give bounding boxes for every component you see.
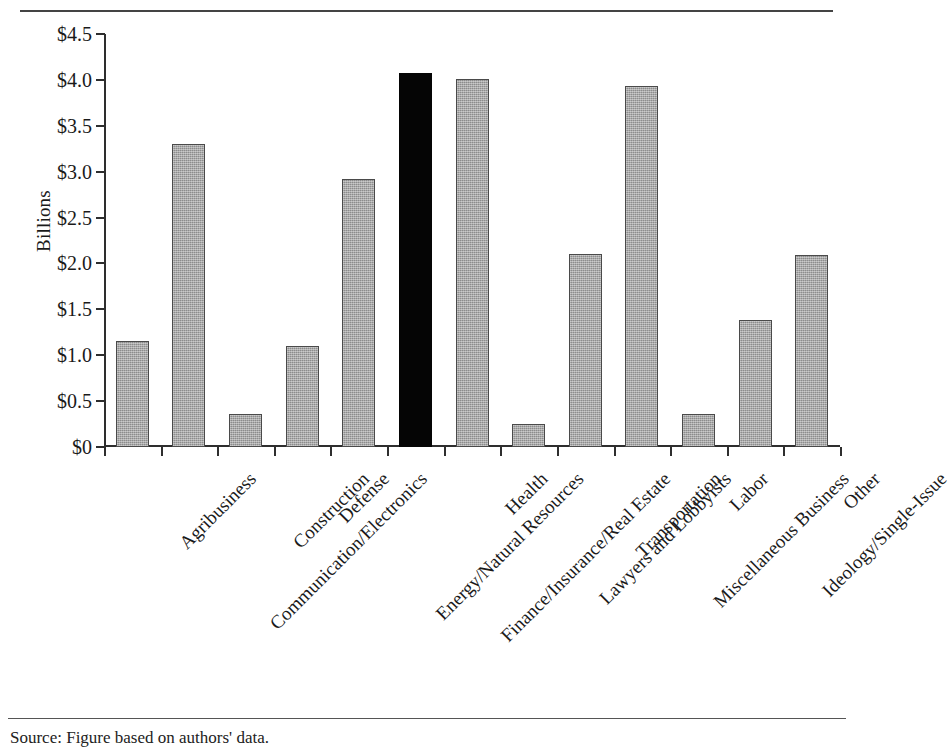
y-tick-label: $2.0 (57, 252, 92, 275)
x-tick-mark (104, 447, 106, 456)
plot-area: $0$0.5$1.0$1.5$2.0$2.5$3.0$3.5$4.0$4.5 (104, 14, 844, 460)
y-tick-label: $3.0 (57, 160, 92, 183)
y-tick-mark (96, 308, 105, 310)
bar[interactable] (739, 320, 772, 447)
x-tick-mark (727, 447, 729, 456)
x-axis-label: Labor (726, 468, 774, 516)
y-tick-mark (96, 125, 105, 127)
bar[interactable] (342, 179, 375, 447)
y-axis-title: Billions (33, 161, 55, 281)
y-tick-mark (96, 354, 105, 356)
bar[interactable] (456, 79, 489, 447)
y-tick-mark (96, 79, 105, 81)
x-tick-mark (783, 447, 785, 456)
bar[interactable] (682, 414, 715, 447)
x-tick-mark (217, 447, 219, 456)
x-tick-mark (387, 447, 389, 456)
y-tick-mark (96, 217, 105, 219)
bar[interactable] (172, 144, 205, 447)
x-tick-mark (444, 447, 446, 456)
x-tick-mark (840, 447, 842, 456)
x-axis-labels: AgribusinessCommunication/ElectronicsCon… (104, 460, 844, 714)
y-tick-label: $2.5 (57, 206, 92, 229)
y-tick-label: $0.5 (57, 390, 92, 413)
bar[interactable] (399, 73, 432, 447)
y-tick-mark (96, 33, 105, 35)
bar[interactable] (625, 86, 658, 447)
bottom-rule (8, 718, 846, 719)
x-axis-label: Agribusiness (175, 468, 261, 554)
x-tick-mark (557, 447, 559, 456)
bar[interactable] (795, 255, 828, 447)
y-tick-label: $3.5 (57, 114, 92, 137)
y-tick-mark (96, 171, 105, 173)
y-tick-mark (96, 262, 105, 264)
x-tick-mark (614, 447, 616, 456)
bar[interactable] (116, 341, 149, 447)
x-tick-mark (274, 447, 276, 456)
top-rule (20, 10, 833, 12)
bar[interactable] (229, 414, 262, 447)
bar[interactable] (512, 424, 545, 447)
y-tick-label: $1.0 (57, 344, 92, 367)
y-tick-mark (96, 400, 105, 402)
y-tick-label: $1.5 (57, 298, 92, 321)
y-tick-label: $4.0 (57, 68, 92, 91)
x-tick-mark (500, 447, 502, 456)
y-tick-label: $0 (72, 436, 92, 459)
x-axis-label: Energy/Natural Resources (431, 468, 588, 625)
x-tick-mark (330, 447, 332, 456)
x-tick-mark (161, 447, 163, 456)
bar-chart: Billions $0$0.5$1.0$1.5$2.0$2.5$3.0$3.5$… (0, 14, 853, 714)
bar[interactable] (286, 346, 319, 447)
y-axis-line (104, 34, 106, 447)
bar[interactable] (569, 254, 602, 447)
y-tick-label: $4.5 (57, 23, 92, 46)
source-note: Source: Figure based on authors' data. (10, 728, 269, 748)
x-tick-mark (670, 447, 672, 456)
